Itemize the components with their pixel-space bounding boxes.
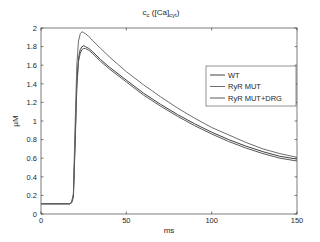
legend: WTRyR MUTRyR MUT+DRG: [206, 66, 296, 106]
line-chart: cc ([Ca]cyt) 00.20.40.60.811.21.41.61.82…: [0, 0, 320, 242]
y-tick-label: 0: [33, 210, 37, 219]
y-tick-label: 1.4: [27, 80, 37, 89]
legend-label: RyR MUT+DRG: [228, 94, 282, 103]
y-tick-label: 0.8: [27, 135, 37, 144]
svg-text:cc ([Ca]cyt): cc ([Ca]cyt): [143, 8, 180, 18]
x-tick-label: 150: [291, 216, 304, 225]
x-axis-label: ms: [164, 226, 175, 235]
legend-label: RyR MUT: [228, 82, 261, 91]
x-tick-label: 0: [39, 216, 43, 225]
y-tick-label: 1.6: [27, 61, 37, 70]
y-axis-label: µM: [11, 115, 20, 127]
x-tick-label: 50: [122, 216, 130, 225]
y-tick-label: 2: [33, 24, 37, 33]
chart-title: cc ([Ca]cyt): [143, 8, 180, 18]
legend-label: WT: [228, 71, 240, 80]
y-tick-label: 0.4: [27, 173, 37, 182]
y-tick-label: 1.2: [27, 98, 37, 107]
y-tick-label: 1.8: [27, 42, 37, 51]
y-tick-label: 0.2: [27, 191, 37, 200]
y-tick-label: 0.6: [27, 154, 37, 163]
y-tick-label: 1: [33, 117, 37, 126]
x-tick-label: 100: [205, 216, 218, 225]
chart-container: cc ([Ca]cyt) 00.20.40.60.811.21.41.61.82…: [0, 0, 320, 242]
